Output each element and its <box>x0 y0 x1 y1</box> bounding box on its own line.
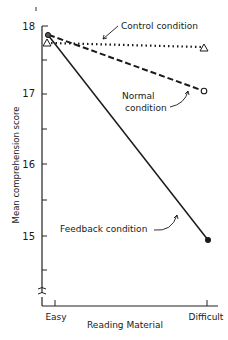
annotation-normal-2: condition <box>125 103 167 113</box>
circle-marker-icon <box>201 88 207 94</box>
annotation-feedback: Feedback condition <box>60 224 147 234</box>
annotation-normal-1: Normal <box>122 91 155 101</box>
circle-marker-icon <box>45 32 50 37</box>
series-feedback-line <box>48 35 208 240</box>
arrow-icon <box>154 215 177 230</box>
triangle-marker-icon <box>43 39 51 46</box>
ytick-18: 18 <box>22 21 35 32</box>
chart: 18 17 16 15 Mean comprehension score Eas… <box>0 0 228 340</box>
xtick-easy: Easy <box>45 312 67 322</box>
xtick-difficult: Difficult <box>189 312 224 322</box>
filled-circle-marker-icon <box>205 237 211 243</box>
ytick-15: 15 <box>22 231 35 242</box>
series-normal-line <box>49 35 201 90</box>
x-axis <box>42 300 218 306</box>
series-control-line <box>51 43 201 47</box>
annotation-control: Control condition <box>121 21 198 31</box>
ytick-17: 17 <box>22 88 35 99</box>
arrow-icon <box>103 26 118 39</box>
triangle-marker-icon <box>200 44 208 51</box>
ytick-16: 16 <box>22 159 35 170</box>
y-axis <box>38 26 48 306</box>
x-axis-label: Reading Material <box>87 320 163 330</box>
y-axis-label: Mean comprehension score <box>11 107 21 224</box>
